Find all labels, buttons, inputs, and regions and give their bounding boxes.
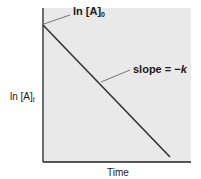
plot-figure — [0, 0, 201, 179]
y-axis-label: ln [A]t — [10, 91, 35, 103]
intercept-label: ln [A] — [73, 5, 101, 17]
x-axis-label: Time — [107, 167, 129, 178]
y-axis-label-main: ln [A] — [10, 91, 33, 102]
plot-area — [43, 8, 191, 162]
intercept-annotation: ln [A]0 — [73, 5, 105, 18]
slope-annotation: slope = −k — [133, 63, 187, 75]
y-axis-label-subscript: t — [33, 96, 35, 103]
intercept-subscript: 0 — [101, 11, 105, 18]
slope-label: slope = − — [133, 63, 181, 75]
slope-k: k — [181, 63, 187, 75]
